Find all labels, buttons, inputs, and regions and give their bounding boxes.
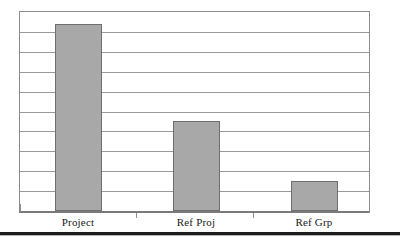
x-axis-baseline xyxy=(19,211,370,213)
bar-chart-figure: Project Ref Proj Ref Grp xyxy=(0,0,400,243)
x-label-ref-grp: Ref Grp xyxy=(264,216,364,228)
bars-group xyxy=(20,12,369,211)
axis-tick-1 xyxy=(136,213,137,218)
axis-tick-left xyxy=(20,204,21,213)
x-label-ref-proj: Ref Proj xyxy=(146,216,246,228)
chart-plot-area xyxy=(19,11,370,212)
bottom-rule-shadow xyxy=(0,235,400,236)
x-label-project: Project xyxy=(28,216,128,228)
bar-ref-proj[interactable] xyxy=(173,121,220,211)
bar-ref-grp[interactable] xyxy=(291,181,338,211)
axis-tick-right xyxy=(369,204,370,213)
bar-project[interactable] xyxy=(55,24,102,211)
axis-tick-2 xyxy=(253,213,254,218)
